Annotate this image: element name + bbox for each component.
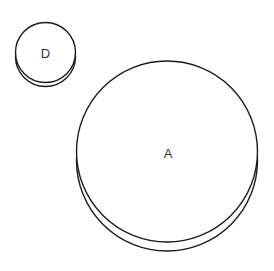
node-d[interactable]: D [16, 23, 76, 87]
node-a-label: A [164, 146, 173, 161]
node-d-label: D [41, 46, 50, 61]
diagram-canvas: D A [0, 0, 274, 271]
node-a[interactable]: A [77, 61, 258, 251]
